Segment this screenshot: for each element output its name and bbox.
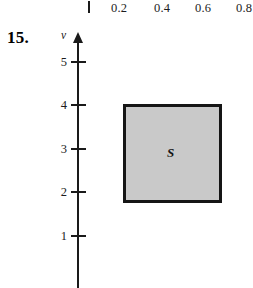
v-axis-tick-label-2: 2 <box>54 185 67 199</box>
figure-canvas: 0.2 0.4 0.6 0.8 15. v 5 4 3 2 1 S <box>0 0 253 288</box>
top-axis-tick-label-2: 0.4 <box>154 0 170 16</box>
v-axis-tick-label-4: 4 <box>54 98 67 112</box>
v-axis-line <box>77 41 79 288</box>
top-axis-tick-label-3: 0.6 <box>195 0 211 16</box>
v-axis-tick-label-1: 1 <box>54 229 67 243</box>
v-axis-tick-label-3: 3 <box>54 142 67 156</box>
v-axis-label: v <box>61 29 66 42</box>
top-axis-tick-label-1: 0.2 <box>111 0 127 16</box>
v-axis-tick-mark-3 <box>71 148 86 150</box>
v-axis-tick-label-5: 5 <box>54 55 67 69</box>
top-axis-tick-label-4: 0.8 <box>236 0 252 16</box>
problem-number: 15. <box>7 28 29 48</box>
top-axis-strip: 0.2 0.4 0.6 0.8 <box>0 0 253 20</box>
region-s-label: S <box>167 146 174 160</box>
v-axis-tick-mark-5 <box>71 61 86 63</box>
v-axis-tick-mark-1 <box>71 235 86 237</box>
top-axis-tick-mark <box>88 1 90 13</box>
v-axis-tick-mark-4 <box>71 104 86 106</box>
v-axis-tick-mark-2 <box>71 191 86 193</box>
